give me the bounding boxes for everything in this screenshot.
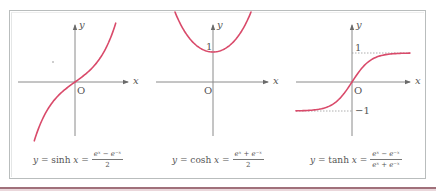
tanh-tick-one: 1 — [355, 43, 361, 53]
sinh-x-label: x — [133, 76, 139, 86]
tanh-origin-label: O — [354, 86, 362, 96]
sinh-formula: y = sinh x = eˣ − e⁻ˣ 2 — [33, 150, 123, 169]
tanh-fraction: eˣ − e⁻ˣ eˣ + e⁻ˣ — [370, 150, 401, 169]
cosh-tick-one: 1 — [206, 42, 212, 52]
stray-dot — [52, 61, 53, 62]
tanh-formula: y = tanh x = eˣ − e⁻ˣ eˣ + e⁻ˣ — [310, 150, 402, 169]
sinh-y-label: y — [79, 20, 85, 30]
cosh-formula: y = cosh x = eˣ + e⁻ˣ 2 — [172, 150, 264, 169]
bottom-rule-shadow — [0, 189, 436, 191]
tanh-tick-minus-one: −1 — [355, 106, 370, 116]
tanh-x-label: x — [415, 76, 421, 86]
sinh-fraction: eˣ − e⁻ˣ 2 — [92, 150, 123, 169]
sinh-origin-label: O — [77, 86, 85, 96]
cosh-origin-label: O — [204, 86, 212, 96]
cosh-graph — [156, 12, 268, 136]
tanh-y-label: y — [356, 20, 362, 30]
cosh-fraction: eˣ + e⁻ˣ 2 — [233, 150, 264, 169]
cosh-y-label: y — [217, 20, 223, 30]
tanh-graph — [296, 25, 410, 136]
sinh-graph — [18, 23, 128, 141]
cosh-x-label: x — [273, 76, 279, 86]
